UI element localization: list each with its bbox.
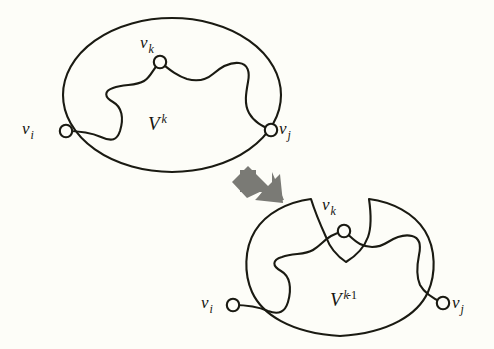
bottom-node-vj — [437, 297, 449, 309]
top-node-vk — [154, 56, 166, 68]
down-right-block-arrow-icon-body — [232, 166, 283, 203]
top-path-vk-to-vj — [160, 62, 271, 130]
top-region-label: Vk — [148, 114, 165, 133]
top-region-boundary — [63, 18, 281, 172]
transformation-arrow — [232, 166, 284, 203]
bottom-label-vj: vj — [452, 294, 463, 311]
bottom-label-vk: vk — [322, 196, 335, 213]
top-label-vj: vj — [279, 120, 290, 137]
top-node-vj — [265, 124, 277, 136]
figure-canvas: vk vi vj Vk vk vi vj Vk-1 — [0, 0, 494, 349]
top-node-vi — [60, 125, 72, 137]
top-panel-group — [60, 18, 281, 172]
bottom-node-vi — [227, 299, 239, 311]
top-label-vk: vk — [140, 34, 153, 51]
bottom-panel-group — [227, 199, 449, 336]
bottom-region-boundary — [246, 199, 433, 336]
bottom-region-label: Vk-1 — [330, 290, 357, 309]
bottom-node-vk — [338, 225, 350, 237]
diagram-svg — [0, 0, 494, 349]
bottom-label-vi: vi — [201, 294, 212, 311]
top-path-vi-to-vk — [66, 62, 160, 140]
top-label-vi: vi — [22, 120, 33, 137]
